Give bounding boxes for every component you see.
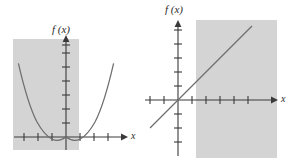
two-panel-graph-figure: f (x) x (0, 0, 291, 168)
y-axis-label-right: f (x) (165, 4, 183, 15)
x-axis-arrowhead-left (121, 134, 128, 141)
panel-line: f (x) x (145, 0, 291, 168)
y-axis-arrowhead-right (175, 20, 182, 27)
line-plot (145, 0, 291, 168)
x-axis-label-right: x (281, 94, 285, 104)
panel-parabola: f (x) x (0, 0, 145, 168)
y-axis-arrowhead-left (63, 35, 70, 42)
parabola-plot (0, 0, 145, 168)
x-axis-label-left: x (131, 131, 135, 141)
y-axis-label-left: f (x) (52, 24, 70, 35)
